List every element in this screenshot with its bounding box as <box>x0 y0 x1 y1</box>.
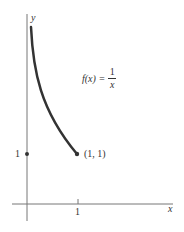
x-tick-label: 1 <box>75 207 80 217</box>
fraction: 1 x <box>108 67 116 90</box>
y-tick-label: 1 <box>15 149 20 159</box>
graph <box>0 0 184 232</box>
point-label: (1, 1) <box>84 149 106 159</box>
numerator: 1 <box>110 67 115 77</box>
fx-text: f(x) = <box>82 73 105 84</box>
x-axis-label: x <box>168 204 172 214</box>
y-axis-label: y <box>31 13 35 23</box>
curve <box>31 27 77 154</box>
point-1-1 <box>75 152 79 156</box>
function-label: f(x) = 1 x <box>82 67 116 90</box>
point-y-1 <box>25 152 29 156</box>
denominator: x <box>110 80 114 90</box>
